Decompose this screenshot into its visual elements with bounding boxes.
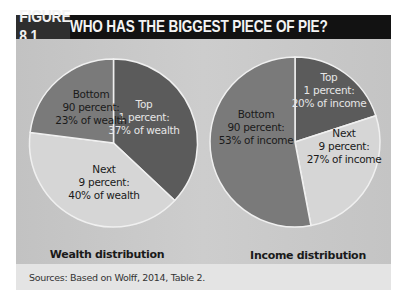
chart-area: Top 1 percent: 37% of wealth Next 9 perc… bbox=[16, 39, 391, 264]
income-caption: Income distribution bbox=[250, 249, 366, 262]
income-bottom-label: Bottom 90 percent: 53% of income bbox=[219, 108, 294, 147]
income-top-label: Top 1 percent: 20% of income bbox=[292, 71, 367, 110]
title-bar: FIGURE 8.1 WHO HAS THE BIGGEST PIECE OF … bbox=[16, 15, 391, 39]
wealth-bottom-label: Bottom 90 percent: 23% of wealth bbox=[55, 88, 126, 127]
figure-number: FIGURE 8.1 bbox=[16, 15, 70, 39]
wealth-caption: Wealth distribution bbox=[50, 248, 164, 261]
wealth-next-label: Next 9 percent: 40% of wealth bbox=[68, 163, 139, 202]
figure-title: WHO HAS THE BIGGEST PIECE OF PIE? bbox=[70, 17, 328, 37]
source-footer: Sources: Based on Wolff, 2014, Table 2. bbox=[16, 264, 391, 290]
source-text: Sources: Based on Wolff, 2014, Table 2. bbox=[29, 272, 205, 283]
income-next-label: Next 9 percent: 27% of income bbox=[307, 127, 382, 166]
figure-8-1: FIGURE 8.1 WHO HAS THE BIGGEST PIECE OF … bbox=[16, 15, 391, 290]
